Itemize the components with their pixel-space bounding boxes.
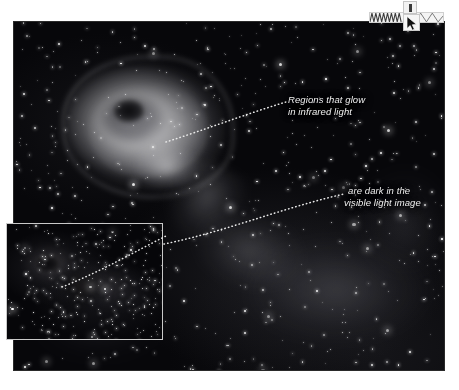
star (162, 225, 163, 226)
inset-dark-core (37, 256, 59, 272)
annotation-visible-line2: visible light image (344, 197, 421, 209)
tooltip-badge[interactable] (403, 1, 417, 14)
tooltip-glyph (409, 4, 412, 12)
annotation-infrared-line2: in infrared light (288, 106, 365, 118)
star (162, 279, 163, 280)
visible-light-inset-image[interactable] (6, 223, 163, 340)
annotation-infrared-line1: Regions that glow (288, 94, 365, 106)
annotation-visible-line1: are dark in the (348, 185, 421, 197)
mouse-cursor-arrow-icon (406, 16, 419, 31)
nebula-dark-cavity (114, 100, 144, 122)
annotation-infrared-caption: Regions that glow in infrared light (288, 94, 365, 118)
cursor-highlight-box[interactable] (403, 14, 420, 31)
annotation-visible-caption: are dark in the visible light image (348, 185, 421, 209)
star (162, 286, 163, 287)
page-canvas: Regions that glow in infrared light are … (0, 0, 459, 390)
